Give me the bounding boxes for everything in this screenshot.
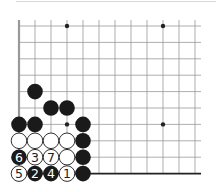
black-stone[interactable] xyxy=(75,149,91,165)
black-stone[interactable] xyxy=(11,117,27,133)
star-point xyxy=(65,122,69,126)
white-stone[interactable] xyxy=(43,133,59,149)
black-stone[interactable] xyxy=(75,166,91,182)
star-point xyxy=(161,24,165,28)
black-stone[interactable] xyxy=(75,133,91,149)
star-point xyxy=(161,122,165,126)
move-number: 1 xyxy=(63,166,71,181)
black-stone[interactable] xyxy=(75,117,91,133)
star-point xyxy=(65,24,69,28)
white-stone[interactable] xyxy=(59,133,75,149)
move-number: 7 xyxy=(47,150,55,165)
move-number: 2 xyxy=(31,166,39,181)
move-number: 4 xyxy=(47,166,55,181)
black-stone[interactable] xyxy=(43,100,59,116)
move-number: 6 xyxy=(15,150,23,165)
black-stone[interactable] xyxy=(27,84,43,100)
white-stone[interactable] xyxy=(59,149,75,165)
move-number: 3 xyxy=(31,150,39,165)
go-board-diagram: 6375241 xyxy=(0,0,216,192)
white-stone[interactable] xyxy=(11,133,27,149)
black-stone[interactable] xyxy=(59,100,75,116)
black-stone[interactable] xyxy=(27,117,43,133)
white-stone[interactable] xyxy=(27,133,43,149)
move-number: 5 xyxy=(15,166,23,181)
